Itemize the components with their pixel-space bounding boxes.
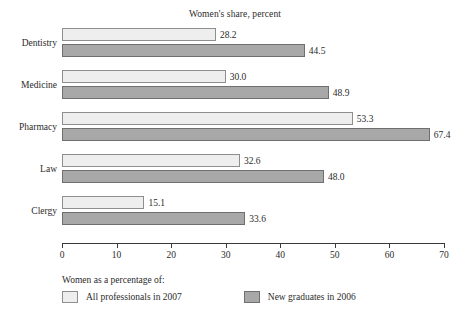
axis-tick [335, 243, 336, 248]
bar-row: 67.4 [62, 128, 444, 141]
bar-value-label: 30.0 [230, 72, 247, 82]
legend-item-all-professionals: All professionals in 2007 [62, 291, 182, 303]
bar-chart: Women's share, percent Dentistry28.244.5… [0, 0, 470, 318]
bar-value-label: 33.6 [249, 214, 266, 224]
bar-row: 48.0 [62, 170, 444, 183]
bar-row: 48.9 [62, 86, 444, 99]
category-label: Medicine [21, 80, 57, 90]
legend-item-new-graduates: New graduates in 2006 [244, 291, 356, 303]
chart-title: Women's share, percent [0, 9, 470, 19]
category-label: Pharmacy [19, 122, 57, 132]
bar [62, 128, 430, 141]
bar-group: Clergy15.133.6 [62, 196, 444, 225]
axis-tick-label: 0 [60, 250, 65, 260]
bar-group: Pharmacy53.367.4 [62, 112, 444, 141]
category-label: Dentistry [22, 38, 57, 48]
category-label: Clergy [31, 206, 57, 216]
bar-row: 30.0 [62, 70, 444, 83]
bar [62, 154, 240, 167]
bar-value-label: 32.6 [244, 156, 261, 166]
bar-value-label: 67.4 [434, 130, 451, 140]
bar-value-label: 28.2 [220, 30, 237, 40]
axis-tick-label: 40 [276, 250, 286, 260]
axis-tick-label: 50 [330, 250, 340, 260]
legend-swatch-icon [62, 291, 78, 303]
legend-label: All professionals in 2007 [86, 292, 182, 302]
bar-value-label: 15.1 [148, 198, 165, 208]
axis-tick-label: 20 [166, 250, 176, 260]
bar-row: 32.6 [62, 154, 444, 167]
legend-caption: Women as a percentage of: [62, 275, 462, 285]
bar-value-label: 48.0 [328, 172, 345, 182]
bar-row: 15.1 [62, 196, 444, 209]
bar [62, 28, 216, 41]
bar-group: Law32.648.0 [62, 154, 444, 183]
axis-tick-label: 60 [385, 250, 395, 260]
chart-legend: Women as a percentage of: All profession… [62, 275, 462, 303]
bar-group: Dentistry28.244.5 [62, 28, 444, 57]
axis-tick [62, 243, 63, 248]
axis-tick-label: 70 [439, 250, 449, 260]
bar-value-label: 53.3 [357, 114, 374, 124]
plot-area: Dentistry28.244.5Medicine30.048.9Pharmac… [62, 28, 444, 238]
bar [62, 70, 226, 83]
legend-label: New graduates in 2006 [268, 292, 356, 302]
axis-tick [226, 243, 227, 248]
bar-row: 53.3 [62, 112, 444, 125]
axis-tick [280, 243, 281, 248]
axis-tick [444, 243, 445, 248]
axis-tick-label: 10 [112, 250, 122, 260]
bar [62, 196, 144, 209]
axis-tick [171, 243, 172, 248]
bar [62, 170, 324, 183]
bar [62, 44, 305, 57]
axis-tick [389, 243, 390, 248]
axis-tick-label: 30 [221, 250, 231, 260]
bar-group: Medicine30.048.9 [62, 70, 444, 99]
bar [62, 212, 245, 225]
legend-swatch-icon [244, 291, 260, 303]
bar-row: 44.5 [62, 44, 444, 57]
category-label: Law [40, 164, 57, 174]
bar-row: 33.6 [62, 212, 444, 225]
axis-tick [117, 243, 118, 248]
bar [62, 112, 353, 125]
bar [62, 86, 329, 99]
axis-line [62, 243, 444, 244]
bar-value-label: 44.5 [309, 46, 326, 56]
bar-value-label: 48.9 [333, 88, 350, 98]
bar-row: 28.2 [62, 28, 444, 41]
legend-items: All professionals in 2007 New graduates … [62, 291, 462, 303]
x-axis: 010203040506070 [62, 243, 444, 269]
